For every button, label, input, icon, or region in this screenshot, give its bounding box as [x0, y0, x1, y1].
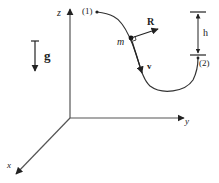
mechanics-diagram: z y x g (1) (2) m R v	[0, 0, 219, 183]
height-label: h	[203, 27, 208, 38]
velocity-label: v	[147, 61, 152, 71]
x-axis	[16, 118, 70, 174]
diagram-canvas: z y x g (1) (2) m R v	[0, 0, 219, 183]
height-dimension: h	[190, 12, 208, 55]
z-axis-label: z	[56, 7, 61, 18]
x-axis-label: x	[6, 160, 11, 170]
gravity-indicator: g	[31, 41, 51, 71]
reaction-force-arrow-icon	[131, 29, 158, 38]
y-axis-label: y	[184, 116, 189, 126]
end-point-label: (2)	[199, 58, 210, 68]
gravity-label: g	[44, 48, 51, 63]
velocity-arrow-icon	[131, 38, 142, 73]
reaction-force-label: R	[147, 16, 155, 27]
start-point-label: (1)	[82, 6, 93, 16]
start-point	[95, 10, 98, 13]
mass-label: m	[117, 36, 124, 47]
